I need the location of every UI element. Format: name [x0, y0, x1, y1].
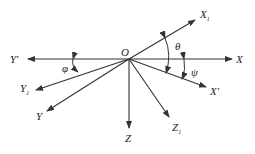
angle-psi-label: ψ [191, 66, 198, 78]
origin-label: O [121, 46, 129, 58]
axis-x1 [129, 20, 195, 59]
angle-phi-label: φ [62, 62, 68, 74]
label-z: Z [125, 132, 132, 144]
axis-y [47, 59, 129, 111]
label-x1: X1 [199, 8, 210, 22]
label-z1: Z1 [172, 121, 181, 135]
psi-arc [182, 59, 185, 79]
frame-diagram: O X1 X Y' X' Y1 Y Z Z1 θ ψ φ [0, 0, 255, 154]
phi-arc [73, 59, 78, 72]
label-x-prime: X' [209, 85, 220, 97]
theta-arc [165, 38, 169, 73]
axis-y1 [36, 59, 129, 90]
label-y1: Y1 [20, 82, 29, 96]
axis-z1 [129, 59, 169, 117]
angle-theta-label: θ [175, 40, 181, 52]
label-x: X [235, 53, 244, 65]
label-y: Y [36, 110, 44, 122]
label-y-prime: Y' [10, 53, 19, 65]
